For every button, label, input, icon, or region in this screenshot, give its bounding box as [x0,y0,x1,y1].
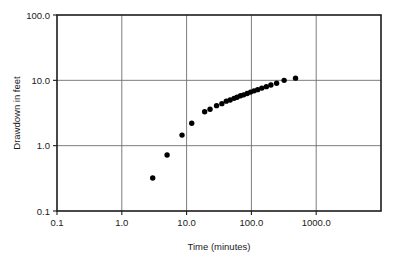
y-tick-label: 0.1 [37,206,50,217]
x-tick-label: 1000.0 [302,217,331,228]
y-tick-label: 1.0 [37,140,50,151]
chart-figure: 0.11.010.0100.01000.0 0.11.010.0100.0 Ti… [0,0,398,256]
data-point [150,175,155,180]
x-tick-label: 1.0 [115,217,128,228]
x-tick-label: 100.0 [240,217,264,228]
data-point [268,82,273,87]
scatter-plot-svg: 0.11.010.0100.01000.0 0.11.010.0100.0 Ti… [0,0,398,256]
x-axis-title: Time (minutes) [188,241,251,252]
y-tick-label: 100.0 [26,10,50,21]
x-axis-tick-labels: 0.11.010.0100.01000.0 [50,217,330,228]
data-point [164,152,169,157]
x-tick-label: 10.0 [177,217,196,228]
data-point [179,132,184,137]
y-axis-tick-labels: 0.11.010.0100.0 [26,10,50,217]
y-axis-title: Drawdown in feet [11,76,22,150]
x-tick-label: 0.1 [50,217,63,228]
data-point [202,109,207,114]
data-point [274,81,279,86]
data-point [281,78,286,83]
data-point [214,103,219,108]
data-point [189,121,194,126]
plot-background [57,15,381,211]
y-tick-label: 10.0 [32,75,51,86]
data-point [207,107,212,112]
data-point [293,75,298,80]
